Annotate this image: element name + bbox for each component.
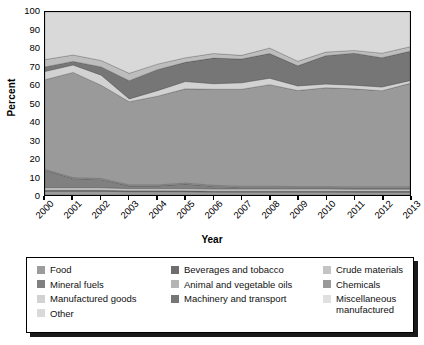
- legend-item[interactable]: Chemicals: [323, 279, 415, 290]
- legend-swatch-icon: [37, 266, 45, 274]
- y-axis-tick-label: 20: [14, 154, 40, 163]
- legend-swatch-icon: [37, 280, 45, 288]
- legend-item[interactable]: Machinery and transport: [171, 293, 321, 304]
- legend-column-1: FoodMineral fuelsManufactured goodsOther: [37, 264, 167, 322]
- legend-item-label: Other: [50, 308, 74, 319]
- y-axis-tick-label: 60: [14, 80, 40, 89]
- plot-area: [44, 11, 411, 196]
- legend-swatch-icon: [37, 309, 45, 317]
- chart-legend: FoodMineral fuelsManufactured goodsOther…: [26, 257, 414, 333]
- x-axis-tick-label: 2001: [55, 198, 84, 227]
- y-axis-tick-label: 80: [14, 43, 40, 52]
- stacked-area-chart: Percent 1009080706050403020100 200020012…: [0, 0, 424, 250]
- legend-column-2: Beverages and tobaccoAnimal and vegetabl…: [171, 264, 321, 308]
- y-axis-tick-label: 10: [14, 173, 40, 182]
- plot-svg: [45, 12, 410, 195]
- x-axis-tick-label: 2009: [281, 198, 310, 227]
- legend-item-label: Machinery and transport: [184, 293, 286, 304]
- legend-item[interactable]: Other: [37, 308, 167, 319]
- legend-item[interactable]: Miscellaneous manufactured: [323, 293, 415, 315]
- x-axis-tick-label: 2011: [337, 198, 366, 227]
- x-axis-title: Year: [0, 234, 424, 245]
- legend-item-label: Manufactured goods: [50, 293, 137, 304]
- legend-swatch-icon: [323, 295, 331, 303]
- y-axis-tick-label: 70: [14, 62, 40, 71]
- legend-item-label: Miscellaneous manufactured: [336, 293, 396, 315]
- legend-swatch-icon: [323, 280, 331, 288]
- y-axis-tick-label: 90: [14, 25, 40, 34]
- x-axis-tick-label: 2005: [168, 198, 197, 227]
- legend-item-label: Chemicals: [336, 279, 380, 290]
- y-axis-tick-label: 30: [14, 136, 40, 145]
- legend-item[interactable]: Mineral fuels: [37, 279, 167, 290]
- y-axis-tick-label: 40: [14, 117, 40, 126]
- chart-screenshot: Percent 1009080706050403020100 200020012…: [0, 0, 424, 345]
- legend-item-label: Beverages and tobacco: [184, 264, 284, 275]
- x-axis-tick-label: 2006: [196, 198, 225, 227]
- legend-item-label: Animal and vegetable oils: [184, 279, 292, 290]
- x-axis-tick-label: 2004: [140, 198, 169, 227]
- x-axis-tick-label: 2010: [309, 198, 338, 227]
- y-axis-tick-label: 100: [14, 6, 40, 15]
- legend-item[interactable]: Crude materials: [323, 264, 415, 275]
- legend-item[interactable]: Beverages and tobacco: [171, 264, 321, 275]
- y-axis-labels: 1009080706050403020100: [8, 0, 40, 200]
- legend-swatch-icon: [323, 266, 331, 274]
- x-axis-labels: 2000200120022003200420052006200720082009…: [44, 198, 411, 234]
- x-axis-tick-label: 2003: [111, 198, 140, 227]
- y-axis-tick-label: 0: [14, 191, 40, 200]
- legend-swatch-icon: [37, 295, 45, 303]
- legend-item-label: Food: [50, 264, 72, 275]
- legend-swatch-icon: [171, 266, 179, 274]
- legend-item-label: Crude materials: [336, 264, 403, 275]
- y-axis-tick-label: 50: [14, 99, 40, 108]
- legend-column-3: Crude materialsChemicalsMiscellaneous ma…: [323, 264, 415, 319]
- x-axis-tick-label: 2007: [224, 198, 253, 227]
- legend-swatch-icon: [171, 280, 179, 288]
- legend-item-label: Mineral fuels: [50, 279, 104, 290]
- area-series: [45, 72, 410, 186]
- legend-item[interactable]: Manufactured goods: [37, 293, 167, 304]
- legend-item[interactable]: Food: [37, 264, 167, 275]
- legend-item[interactable]: Animal and vegetable oils: [171, 279, 321, 290]
- x-axis-tick-label: 2013: [394, 198, 423, 227]
- legend-swatch-icon: [171, 295, 179, 303]
- x-axis-tick-label: 2002: [83, 198, 112, 227]
- x-axis-tick-label: 2008: [253, 198, 282, 227]
- x-axis-tick-label: 2012: [366, 198, 395, 227]
- x-axis-tick-label: 2000: [27, 198, 56, 227]
